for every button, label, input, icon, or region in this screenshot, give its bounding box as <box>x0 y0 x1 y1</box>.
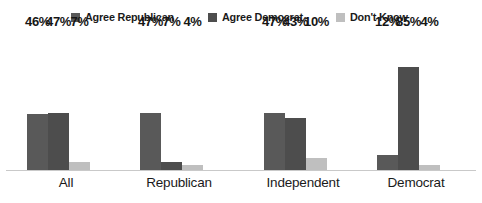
bar[interactable] <box>140 113 161 170</box>
bar-slot[interactable]: 4% <box>419 30 440 170</box>
bar-slot[interactable]: 12% <box>377 30 398 170</box>
bar-value-label: 47% <box>46 15 71 30</box>
bar-slot[interactable]: 85% <box>398 30 419 170</box>
bar-group: 47%7%4%Republican <box>140 0 218 203</box>
bar-value-label: 7% <box>71 15 89 30</box>
bar-slot[interactable]: 47% <box>140 30 161 170</box>
category-axis-label: All <box>27 176 105 190</box>
bar-slot[interactable]: 43% <box>285 30 306 170</box>
bar-value-label: 85% <box>396 15 421 30</box>
bar-value-label: 10% <box>304 15 329 30</box>
bar-slot[interactable]: 7% <box>69 30 90 170</box>
bar-slot[interactable]: 7% <box>161 30 182 170</box>
bar-group-bars: 47%43%10% <box>264 30 327 170</box>
bar[interactable] <box>69 162 90 171</box>
bar-slot[interactable]: 4% <box>182 30 203 170</box>
bar-slot[interactable]: 10% <box>306 30 327 170</box>
bar-slot[interactable]: 47% <box>48 30 69 170</box>
bar-value-label: 7% <box>163 15 181 30</box>
bar[interactable] <box>398 67 419 170</box>
category-axis-label: Republican <box>140 176 218 190</box>
bar[interactable] <box>48 113 69 170</box>
category-axis-label: Democrat <box>377 176 455 190</box>
bar-value-label: 4% <box>184 15 202 30</box>
category-axis-label: Independent <box>264 176 342 190</box>
bar-value-label: 47% <box>138 15 163 30</box>
bar-group-bars: 12%85%4% <box>377 30 440 170</box>
bar[interactable] <box>182 165 203 170</box>
bar-slot[interactable]: 47% <box>264 30 285 170</box>
bar[interactable] <box>27 114 48 170</box>
bar-group-bars: 47%7%4% <box>140 30 203 170</box>
bar-value-label: 4% <box>421 15 439 30</box>
bar[interactable] <box>161 162 182 171</box>
bar[interactable] <box>285 118 306 170</box>
bar-slot[interactable]: 46% <box>27 30 48 170</box>
bar-group: 46%47%7%All <box>27 0 105 203</box>
bar[interactable] <box>306 158 327 170</box>
plot-area: 46%47%7%All47%7%4%Republican47%43%10%Ind… <box>0 0 482 203</box>
bar-group: 12%85%4%Democrat <box>377 0 455 203</box>
bar[interactable] <box>264 113 285 170</box>
bar-group-bars: 46%47%7% <box>27 30 90 170</box>
bar[interactable] <box>419 165 440 170</box>
bar-group: 47%43%10%Independent <box>264 0 342 203</box>
grouped-bar-chart: Agree Republican Agree Democrat Don't Kn… <box>0 0 482 203</box>
bar[interactable] <box>377 155 398 170</box>
